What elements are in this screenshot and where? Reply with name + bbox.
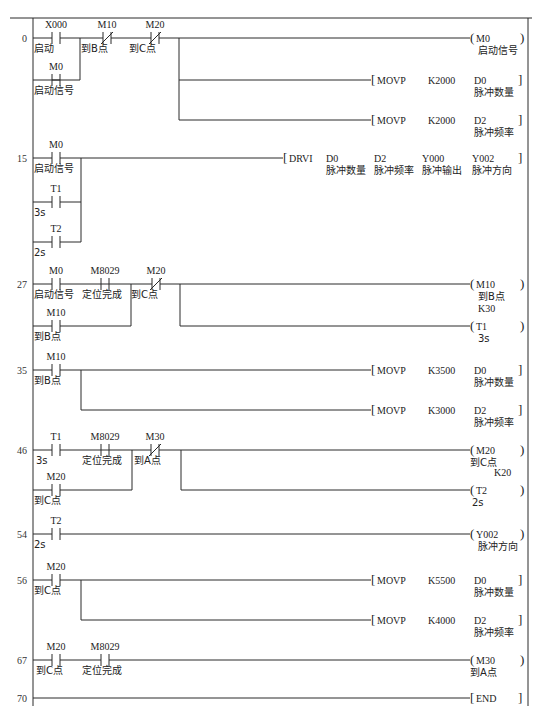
coil-close-paren: ): [520, 276, 524, 291]
contact-address: M20: [146, 19, 165, 30]
instr-source: K5500: [428, 575, 455, 586]
instr-close-bracket: ]: [518, 612, 522, 627]
coil-address: M30: [476, 655, 495, 666]
contact-comment: 启动信号: [34, 162, 74, 174]
instr-arg: D0: [326, 153, 338, 164]
contact-comment: 到C点: [131, 289, 158, 300]
instr-destination: D2: [474, 405, 486, 416]
coil-comment: 脉冲方向: [478, 540, 518, 552]
contact-address: M8029: [91, 265, 120, 276]
instr-opcode: END: [476, 693, 497, 704]
coil-close-paren: ): [520, 30, 524, 45]
instr-destination: D0: [474, 365, 486, 376]
instr-close-bracket: ]: [518, 572, 522, 587]
instr-opcode: DRVI: [289, 153, 313, 164]
instr-arg: D2: [374, 153, 386, 164]
contact-address: T1: [50, 183, 61, 194]
step-number: 35: [17, 365, 27, 376]
contact-comment: 启动信号: [34, 288, 74, 300]
coil-close-paren: ): [520, 482, 524, 497]
instr-opcode: MOVP: [377, 365, 406, 376]
contact-address: M10: [47, 307, 66, 318]
coil-close-paren: ): [520, 652, 524, 667]
coil-close-paren: ): [520, 442, 524, 457]
instr-close-bracket: ]: [518, 362, 522, 377]
step-number: 15: [17, 153, 27, 164]
contact-address: T2: [50, 515, 61, 526]
instr-source: K4000: [428, 615, 455, 626]
contact-comment: 定位完成: [82, 288, 122, 300]
instr-source: K2000: [428, 115, 455, 126]
instr-arg: Y002: [472, 153, 494, 164]
instr-open-bracket: [: [371, 362, 375, 377]
instr-opcode: MOVP: [377, 615, 406, 626]
coil-comment: 启动信号: [478, 44, 518, 56]
instr-open-bracket: [: [470, 690, 474, 705]
instr-dest-comment: 脉冲数量: [474, 86, 514, 98]
instr-dest-comment: 脉冲频率: [474, 416, 514, 428]
contact-address: M20: [147, 265, 166, 276]
contact-comment: 3s: [34, 207, 46, 218]
contact-address: T2: [50, 223, 61, 234]
instr-opcode: MOVP: [377, 405, 406, 416]
ladder-diagram: 0X000启动M10到B点M20到C点M0启动信号(M0)启动信号[MOVPK2…: [0, 0, 542, 718]
instr-arg-comment: 脉冲方向: [472, 164, 512, 176]
contact-comment: 到B点: [81, 43, 108, 54]
contact-comment: 启动信号: [34, 84, 74, 96]
instr-destination: D0: [474, 75, 486, 86]
contact-address: M20: [47, 561, 66, 572]
coil-address: M20: [476, 445, 495, 456]
contact-address: M8029: [91, 431, 120, 442]
coil-comment: 3s: [478, 333, 490, 344]
contact-address: M10: [98, 19, 117, 30]
coil-address: T2: [476, 485, 487, 496]
contact-address: M8029: [91, 641, 120, 652]
contact-address: M0: [49, 61, 63, 72]
step-number: 0: [22, 33, 27, 44]
instr-destination: D2: [474, 115, 486, 126]
contact-address: M10: [47, 351, 66, 362]
coil-open-paren: (: [470, 482, 474, 497]
instr-open-bracket: [: [371, 612, 375, 627]
coil-address: T1: [476, 321, 487, 332]
instr-opcode: MOVP: [377, 75, 406, 86]
coil-open-paren: (: [470, 276, 474, 291]
step-number: 46: [17, 445, 27, 456]
coil-comment: 到C点: [470, 457, 497, 468]
contact-comment: 到B点: [34, 375, 61, 386]
instr-dest-comment: 脉冲数量: [474, 376, 514, 388]
contact-address: T1: [50, 431, 61, 442]
contact-comment: 定位完成: [82, 454, 122, 466]
contact-comment: 2s: [34, 539, 46, 550]
instr-open-bracket: [: [371, 72, 375, 87]
instr-source: K3000: [428, 405, 455, 416]
contact-address: M0: [49, 265, 63, 276]
contact-address: M20: [47, 641, 66, 652]
instr-opcode: MOVP: [377, 115, 406, 126]
instr-open-bracket: [: [371, 402, 375, 417]
instr-opcode: MOVP: [377, 575, 406, 586]
coil-open-paren: (: [470, 30, 474, 45]
instr-open-bracket: [: [371, 112, 375, 127]
coil-comment: 2s: [472, 497, 484, 508]
instr-dest-comment: 脉冲频率: [474, 126, 514, 138]
instr-close-bracket: ]: [518, 402, 522, 417]
instr-arg: Y000: [422, 153, 444, 164]
step-number: 70: [17, 693, 27, 704]
coil-address: M0: [476, 33, 490, 44]
contact-comment: 启动: [34, 42, 54, 54]
coil-comment: 到A点: [470, 667, 497, 678]
contact-comment: 定位完成: [82, 664, 122, 676]
instr-source: K3500: [428, 365, 455, 376]
coil-open-paren: (: [470, 442, 474, 457]
contact-comment: 到A点: [134, 455, 161, 466]
coil-address: M10: [476, 279, 495, 290]
step-number: 27: [17, 279, 27, 290]
contact-comment: 3s: [36, 455, 48, 466]
step-number: 67: [17, 655, 27, 666]
instr-destination: D2: [474, 615, 486, 626]
instr-dest-comment: 脉冲频率: [474, 626, 514, 638]
contact-address: M30: [146, 431, 165, 442]
contact-comment: 到C点: [129, 43, 156, 54]
step-number: 54: [17, 529, 27, 540]
